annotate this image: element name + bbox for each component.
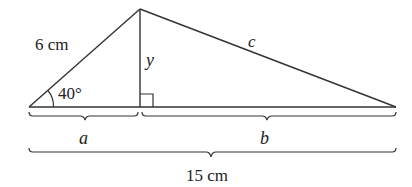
left-side [29,9,140,107]
brace-a [29,112,138,120]
left-side-label: 6 cm [35,35,69,54]
triangle-diagram: 6 cm 40° y c a b 15 cm [0,0,412,187]
segment-b-label: b [260,128,269,148]
angle-label: 40° [58,84,82,103]
right-side-c [140,9,396,107]
altitude-label: y [144,50,154,70]
segment-a-label: a [79,128,88,148]
right-side-label: c [248,32,256,51]
brace-total [29,148,396,157]
right-angle-marker [140,94,153,107]
total-base-label: 15 cm [186,166,228,185]
angle-arc [48,91,54,108]
brace-b [142,112,396,120]
